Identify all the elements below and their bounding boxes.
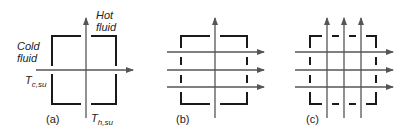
diagram-canvas: [0, 0, 410, 131]
panel-b-caption: (b): [176, 113, 189, 125]
hot-fluid-label-line1: Hot: [96, 9, 113, 21]
cold-inlet-temp-label: Tc,su: [25, 74, 46, 91]
hot-inlet-temp-label: Th,su: [91, 112, 113, 129]
t-subscript: c,su: [32, 80, 47, 89]
cold-fluid-label-line1: Cold: [17, 40, 40, 52]
t-symbol: T: [25, 74, 32, 86]
panel-c: [295, 18, 393, 118]
panel-c-caption: (c): [306, 113, 319, 125]
panel-b: [167, 18, 264, 118]
panel-a: [36, 18, 133, 118]
panel-a-caption: (a): [46, 113, 59, 125]
cold-fluid-label-line2: fluid: [17, 52, 37, 64]
t-subscript: h,su: [98, 118, 113, 127]
hot-fluid-label-line2: fluid: [96, 21, 116, 33]
t-symbol: T: [91, 112, 98, 124]
